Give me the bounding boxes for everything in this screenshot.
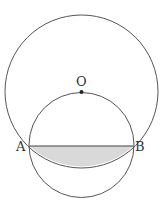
label-o: O <box>76 74 87 89</box>
small-circle <box>29 93 134 198</box>
geometry-diagram: O A B <box>0 0 166 212</box>
shaded-region <box>30 146 134 166</box>
center-point-o <box>80 90 84 94</box>
label-a: A <box>15 139 26 154</box>
label-b: B <box>135 139 145 154</box>
